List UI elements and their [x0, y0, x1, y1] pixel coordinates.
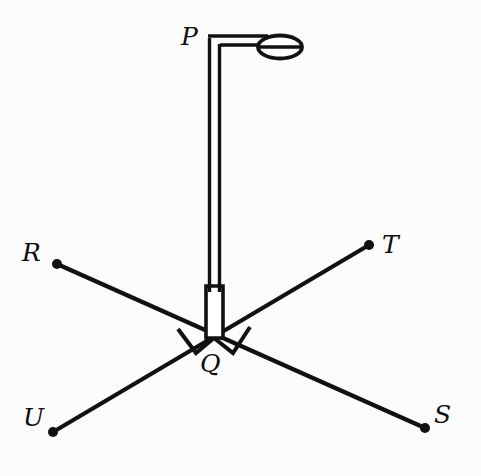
endpoint-dots	[48, 240, 430, 437]
label-S: S	[434, 402, 451, 427]
point-R-dot	[52, 259, 62, 269]
point-U-dot	[48, 427, 58, 437]
label-T: T	[382, 232, 399, 257]
diagram-canvas: P R T Q U S	[0, 0, 481, 476]
point-T-dot	[364, 240, 374, 250]
point-S-dot	[420, 423, 430, 433]
segment-RS	[57, 264, 425, 428]
label-P: P	[181, 24, 198, 49]
intersecting-paths	[53, 245, 425, 432]
geometry-figure	[0, 0, 481, 476]
lamp-base	[206, 286, 223, 338]
label-R: R	[22, 240, 41, 265]
label-Q: Q	[200, 351, 221, 376]
label-U: U	[23, 405, 44, 430]
